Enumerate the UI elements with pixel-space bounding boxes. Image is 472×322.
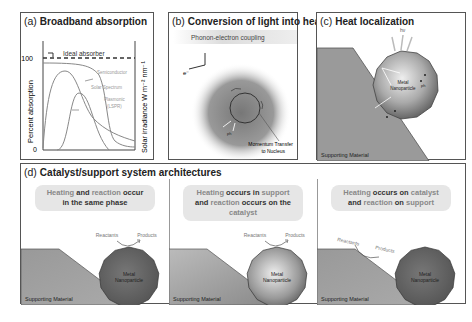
plasmonic-label: Plasmonic	[104, 97, 126, 102]
solar-spectrum-label: Solar Spectrum	[91, 85, 122, 90]
np-label-2: Nanoparticle	[115, 277, 143, 283]
np-label-1: Metal	[397, 80, 408, 85]
plasmonic-curve	[57, 93, 109, 150]
scenario-scene: MetalNanoparticleSupporting MaterialReac…	[317, 179, 465, 305]
light-ray	[401, 35, 403, 50]
axis-arrow	[189, 65, 205, 69]
support-label: Supporting Material	[173, 296, 221, 302]
panel-b-light-to-heat: (b)Conversion of light into heat Phonon-…	[168, 12, 298, 160]
phonon-dot	[420, 80, 422, 82]
panel-c-heat-localization: (c)Heat localization hν Metal Nanopartic…	[316, 12, 466, 160]
phonon-banner-text: Phonon-electron coupling	[191, 34, 265, 42]
light-ray	[407, 37, 412, 51]
tick-0: 0	[33, 146, 37, 153]
scenario-1: Heating and reaction occurin the same ph…	[21, 179, 170, 303]
phonon-dot	[386, 116, 388, 118]
ideal-bracket	[48, 53, 53, 57]
np-label-2: Nanoparticle	[411, 277, 439, 283]
reactants-label: Reactants	[244, 232, 267, 238]
panel-d-title: (d)Catalyst/support system architectures	[24, 166, 222, 178]
reactants-label: Reactants	[337, 236, 361, 247]
scenario-2: Heating occurs in supportand reaction oc…	[169, 179, 318, 303]
semiconductor-label: Semiconductor	[97, 70, 128, 75]
heat-localization-diagram: hν Metal Nanoparticle ph Supporting Mate…	[317, 13, 467, 161]
reactants-label: Reactants	[96, 232, 119, 238]
electron-label: e⁻	[183, 70, 189, 76]
phonon-dot	[424, 74, 426, 76]
panel-d-catalyst-architectures: (d)Catalyst/support system architectures…	[20, 163, 466, 304]
momentum-label-2: to Nucleus	[261, 148, 285, 154]
phonon-dot	[394, 110, 396, 112]
support-label: Supporting Material	[321, 152, 369, 158]
support-label: Supporting Material	[321, 296, 369, 302]
light-heat-diagram: Phonon-electron coupling e⁻ ph Momentum …	[169, 13, 299, 161]
np-label-2: Nanoparticle	[390, 86, 416, 91]
lspr-label: (LSPR)	[107, 104, 122, 109]
products-label: Products	[375, 244, 396, 254]
scenario-scene: MetalNanoparticleSupporting MaterialReac…	[169, 179, 317, 305]
absorption-plot: 100 0 Ideal absorber Semiconductor Solar…	[21, 13, 155, 161]
title-text: Catalyst/support system architectures	[40, 167, 222, 178]
ph-label: ph	[227, 131, 231, 136]
products-label: Products	[137, 232, 157, 238]
ideal-absorber-label: Ideal absorber	[63, 50, 105, 57]
momentum-label-1: Momentum Transfer	[248, 141, 293, 147]
arrow-line	[85, 79, 93, 81]
scenario-3: Heating occurs on catalystand reaction o…	[317, 179, 465, 303]
ph-label: ph	[421, 83, 425, 88]
solar-spectrum-curve	[43, 71, 135, 148]
panel-a-broadband-absorption: (a)Broadband absorption 100 0 Ideal abso…	[20, 12, 154, 160]
products-label: Products	[285, 232, 305, 238]
y-axis-left-label: Percent absorption	[26, 80, 35, 143]
light-ray	[392, 37, 395, 51]
panel-label: (d)	[24, 166, 37, 178]
tick-100: 100	[21, 55, 33, 62]
np-label-2: Nanoparticle	[263, 277, 291, 283]
scenario-scene: MetalNanoparticleSupporting MaterialReac…	[21, 179, 169, 305]
reaction-arrow	[265, 241, 287, 246]
support-label: Supporting Material	[25, 296, 73, 302]
y-axis-right-label: Solar irradiance W m⁻² nm⁻¹	[140, 61, 149, 153]
hv-label: hν	[400, 27, 406, 33]
reaction-arrow	[117, 241, 139, 246]
